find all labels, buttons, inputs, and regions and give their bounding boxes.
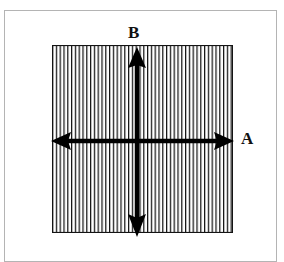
vertical-hatch-square bbox=[52, 45, 233, 233]
hatch-pattern-svg bbox=[52, 45, 233, 233]
hatch-fill bbox=[52, 45, 233, 233]
axis-label-a: A bbox=[241, 130, 254, 147]
axis-label-b: B bbox=[128, 24, 140, 41]
